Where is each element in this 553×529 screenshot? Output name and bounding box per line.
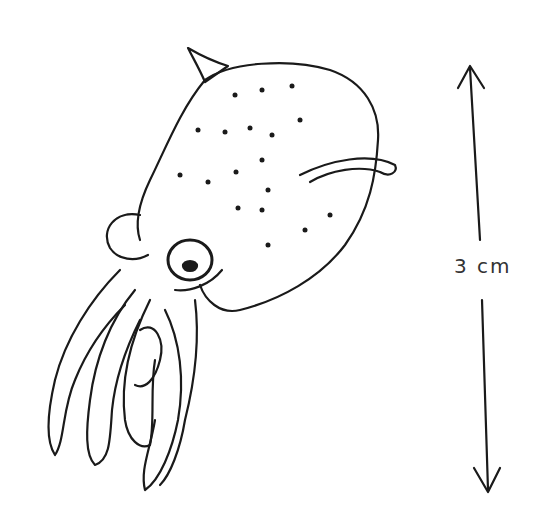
arrow-shaft-top [470,68,480,240]
head-bump [107,214,148,259]
arm-6 [135,327,161,386]
arrow-shaft-bottom [482,300,488,490]
arm-3 [124,300,155,446]
arm-4 [144,310,181,490]
mantle [200,63,378,311]
arm-5 [160,300,197,485]
scale-arrow [458,66,500,492]
scale-label: 3 cm [452,254,514,278]
spots [178,84,333,248]
mantle-back [138,80,205,240]
eye-pupil [183,261,197,271]
siphon [300,158,396,182]
